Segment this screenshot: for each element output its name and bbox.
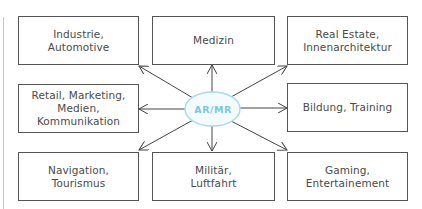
box-gaming: Gaming, Entertainement bbox=[287, 152, 408, 201]
box-navigation: Navigation, Tourismus bbox=[18, 152, 139, 201]
box-militaer: Militär, Luftfahrt bbox=[152, 152, 275, 201]
box-medizin: Medizin bbox=[152, 16, 275, 65]
box-real-estate: Real Estate, Innenarchitektur bbox=[287, 16, 408, 65]
box-industrie: Industrie, Automotive bbox=[18, 16, 139, 65]
hub-label: AR/MR bbox=[185, 92, 241, 126]
box-bildung: Bildung, Training bbox=[287, 83, 408, 132]
box-retail: Retail, Marketing, Medien, Kommunikation bbox=[18, 84, 139, 133]
